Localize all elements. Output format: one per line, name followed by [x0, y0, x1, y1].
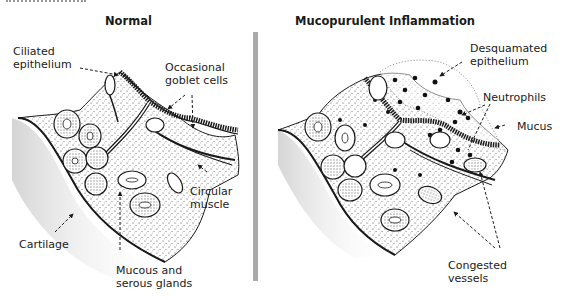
panel-title-inflammation: Mucopurulent Inflammation [295, 14, 475, 28]
label-ciliated-epithelium: Ciliated epithelium [13, 45, 72, 71]
label-cartilage: Cartilage [19, 238, 69, 251]
label-congested-vessels: Congested vessels [448, 259, 507, 285]
label-desquamated-epithelium: Desquamated epithelium [470, 42, 547, 68]
label-neutrophils: Neutrophils [483, 91, 546, 104]
inflamed-bronchus-drawing [278, 60, 508, 258]
panel-title-normal: Normal [105, 14, 152, 28]
label-mucus: Mucus [517, 120, 552, 133]
label-circular-muscle: Circular muscle [190, 185, 232, 211]
label-mucous-serous-glands: Mucous and serous glands [116, 264, 192, 290]
panel-divider [253, 32, 258, 281]
label-occasional-goblet-cells: Occasional goblet cells [165, 61, 228, 87]
